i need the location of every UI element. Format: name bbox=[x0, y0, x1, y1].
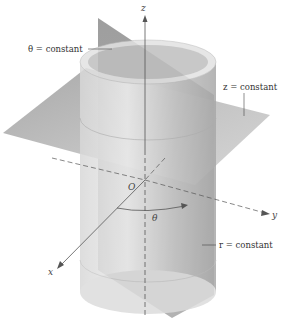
theta-constant-label: θ = constant bbox=[28, 44, 83, 54]
y-axis-arrow-icon bbox=[261, 210, 270, 216]
cylindrical-coordinates-diagram: z y x O θ θ = constant z = constant r = … bbox=[0, 0, 291, 324]
y-axis-label: y bbox=[271, 210, 278, 220]
z-axis-arrow-icon bbox=[143, 15, 148, 22]
z-constant-label: z = constant bbox=[223, 82, 278, 92]
z-axis-label: z bbox=[140, 3, 146, 13]
r-constant-label: r = constant bbox=[219, 240, 273, 250]
origin-label: O bbox=[128, 182, 136, 192]
x-axis-arrow-icon bbox=[57, 261, 64, 269]
x-axis-label: x bbox=[48, 267, 53, 277]
theta-angle-label: θ bbox=[152, 213, 158, 223]
